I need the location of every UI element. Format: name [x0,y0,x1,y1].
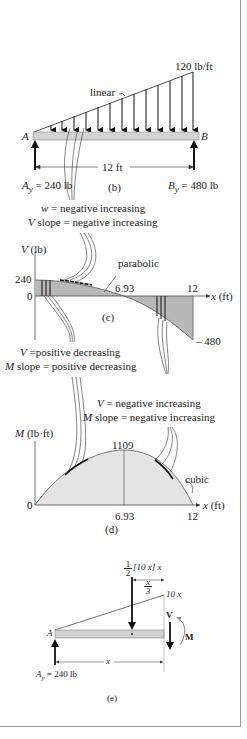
reaction-b-label: By = 480 lb [168,180,218,194]
point-a-label: A [22,131,29,142]
caption-e: (e) [107,694,117,703]
note-v-positive: V =positive decreasing [20,347,120,358]
tick-240: 240 [15,274,32,285]
shear-force-label: V [166,611,173,620]
tick-693-shear: 6.93 [115,283,134,294]
moment-arm-fraction: x3 [144,578,152,595]
half-fraction: 12 [124,560,132,577]
tick-12-moment: 12 [187,511,198,522]
point-b-label: B [201,131,208,142]
free-body-diagram [51,577,185,672]
peak-moment-value: 1109 [112,440,134,451]
note-v-negative: V = negative increasing [97,398,201,409]
parabolic-label: parabolic [118,258,159,269]
length-x-label: x [106,657,110,666]
caption-b: (b) [108,182,121,193]
tick-neg480: – 480 [196,336,221,347]
moment-label: M [185,633,194,642]
load-intensity-label: 120 lb/ft [175,61,213,72]
moment-x-axis-label: x (ft) [203,500,225,511]
intensity-label: 10 x [166,590,181,599]
note-m-slope-negative: M slope = negative increasing [83,412,215,423]
distributed-load [34,72,193,132]
beam [33,132,199,140]
note-w-negative: w = negative increasing [41,203,145,214]
span-label: 12 ft [102,162,122,173]
tick-0-shear: 0 [27,291,33,302]
note-v-slope: V slope = negative increasing [28,217,158,228]
tick-12-shear: 12 [187,283,198,294]
tick-0-moment: 0 [27,500,33,511]
resultant-label: [10 x] x [133,563,162,572]
note-m-slope-positive: M slope = positive decreasing [5,361,136,372]
reaction-a-label-e: Ay = 240 lb [36,670,77,682]
caption-d: (d) [105,524,118,535]
reaction-a-label: Ay = 240 lb [22,180,72,194]
caption-c: (c) [102,312,114,323]
shear-axis-label: V (lb) [21,244,46,255]
moment-axis-label: M (lb·ft) [15,428,53,439]
tick-693-moment: 6.93 [115,511,134,522]
point-a-label-e: A [47,629,53,638]
cubic-label: cubic [185,474,209,485]
linear-label: linear [90,87,115,98]
shear-x-axis-label: x (ft) [211,291,233,302]
